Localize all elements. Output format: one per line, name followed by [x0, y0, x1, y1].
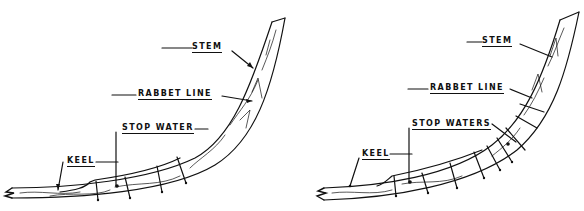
- keel-stem-line-art: [292, 0, 584, 211]
- label-rabbet-line: RABBET LINE: [138, 90, 212, 98]
- label-keel: KEEL: [67, 157, 95, 165]
- keel-stem-line-art: [0, 0, 292, 211]
- label-rabbet-line: RABBET LINE: [430, 84, 504, 92]
- label-stop-waters: STOP WATERS: [412, 120, 491, 128]
- label-stem: STEM: [482, 37, 512, 45]
- keel-stem-drawing-multiple-stopwaters: STEM RABBET LINE STOP WATERS KEEL: [292, 0, 584, 211]
- label-stem: STEM: [192, 43, 222, 51]
- label-keel: KEEL: [362, 150, 390, 158]
- label-stop-water: STOP WATER: [122, 124, 194, 132]
- keel-stem-drawing-single-stopwater: STEM RABBET LINE STOP WATER KEEL: [0, 0, 292, 211]
